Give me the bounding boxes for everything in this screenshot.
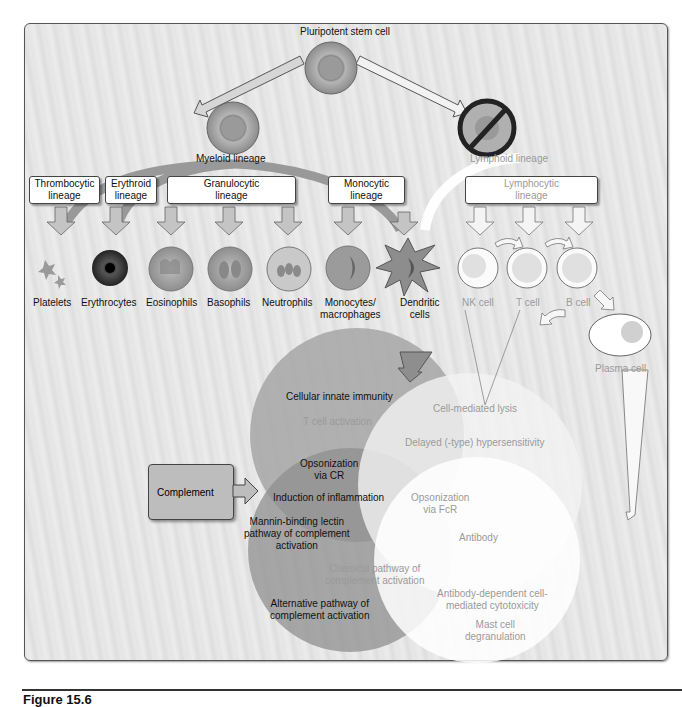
venn-mannin-binding-lectin: Mannin-binding lectin pathway of complem… [244,516,350,552]
caption-rule [22,689,682,691]
t-cell-label: T cell [516,297,540,309]
lymphoid-lineage-label: Lymphoid lineage [470,153,548,165]
venn-delayed-hypersensitivity: Delayed (-type) hypersensitivity [405,437,545,449]
stem-cell-label: Pluripotent stem cell [300,26,390,38]
myeloid-lineage-label: Myeloid lineage [196,153,266,165]
monocytic-lineage-box: Monocytic lineage [328,176,405,204]
venn-opsonization-fcr: Opsonization via FcR [411,492,469,516]
figure-caption: Figure 15.6 [23,692,92,707]
lymphocytic-lineage-box: Lymphocytic lineage [465,176,598,204]
venn-opsonization-cr: Opsonization via CR [300,458,358,482]
venn-cell-mediated-lysis: Cell-mediated lysis [433,403,517,415]
venn-classical-pathway: Classical pathway of complement activati… [325,563,425,587]
venn-cellular-innate-immunity: Cellular innate immunity [286,391,393,403]
venn-antibody: Antibody [459,532,498,544]
basophils-label: Basophils [207,297,250,309]
platelets-icon [38,260,66,289]
monocytes-macrophages-label: Monocytes/ macrophages [320,297,381,321]
venn-t-cell-activation: T cell activation [303,416,372,428]
thrombocytic-lineage-box: Thrombocytic lineage [29,176,100,204]
monocyte-icon [326,246,370,290]
erythroid-lineage-box: Erythroid lineage [105,176,157,204]
plasma-cell-label: Plasma cell [595,363,646,375]
basophil-icon [208,247,252,291]
venn-alternative-pathway: Alternative pathway of complement activa… [270,598,370,622]
platelets-label: Platelets [33,297,71,309]
b-cell-label: B cell [566,297,590,309]
nk-cell-label: NK cell [462,297,494,309]
venn-adcc: Antibody-dependent cell- mediated cytoto… [437,588,548,612]
eosinophils-label: Eosinophils [146,297,197,309]
granulocytic-lineage-box: Granulocytic lineage [167,176,296,204]
neutrophils-label: Neutrophils [262,297,313,309]
dendritic-cells-label: Dendritic cells [400,297,439,321]
dendritic-cell-icon [376,238,440,296]
venn-mast-cell-degranulation: Mast cell degranulation [465,619,526,643]
complement-box: Complement [148,464,234,520]
venn-induction-inflammation: Induction of inflammation [273,492,384,504]
erythrocytes-label: Erythrocytes [81,297,137,309]
